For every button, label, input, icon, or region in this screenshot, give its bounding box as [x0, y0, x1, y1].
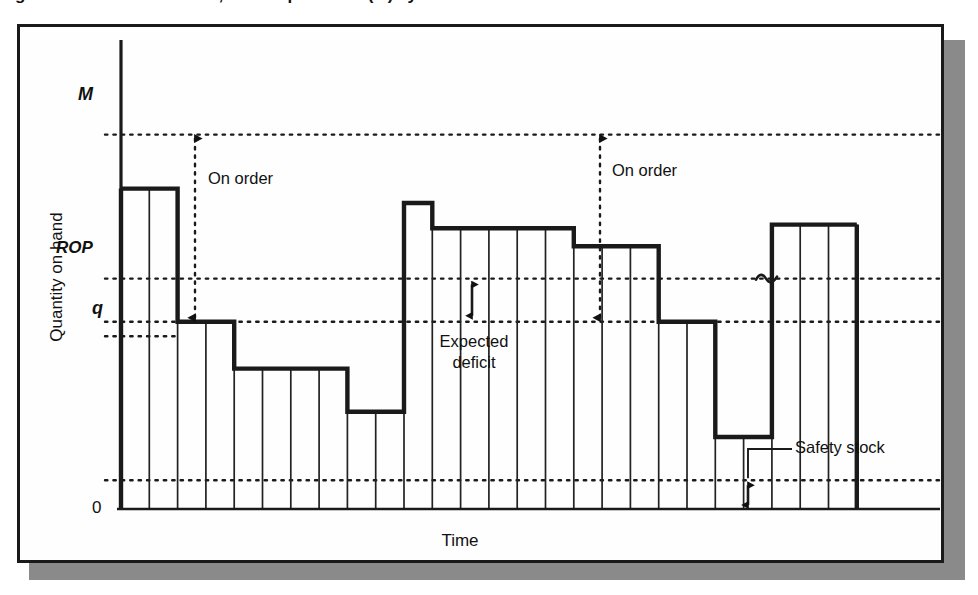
y-tick-q: q	[92, 298, 103, 319]
y-axis-title: Quantity on hand	[47, 182, 67, 372]
annotation-on-order-second: On order	[612, 160, 702, 181]
figure-caption: Figure 13.9 Periodic review, order-up-to…	[0, 0, 978, 6]
figure-container: Figure 13.9 Periodic review, order-up-to…	[0, 0, 978, 595]
annotation-safety-stock: Safety stock	[795, 437, 945, 458]
x-axis-title: Time	[380, 531, 540, 551]
figure-caption-text: Figure 13.9 Periodic review, order-up-to…	[0, 0, 978, 6]
y-tick-M: M	[78, 84, 93, 105]
annotation-expected-deficit: Expected deficit	[418, 331, 530, 373]
annotation-on-order-first: On order	[208, 168, 298, 189]
figure-border	[17, 24, 944, 563]
y-tick-0: 0	[92, 498, 101, 518]
y-tick-ROP: ROP	[56, 238, 93, 258]
